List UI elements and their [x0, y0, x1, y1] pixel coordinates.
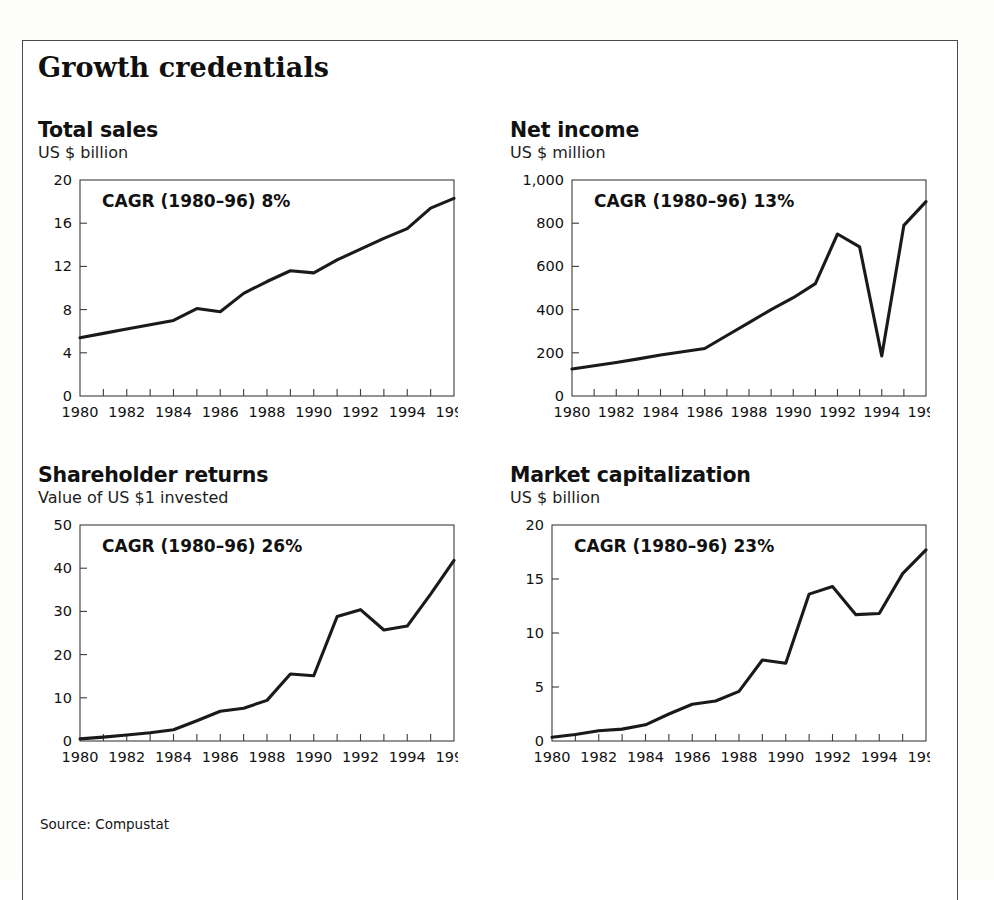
x-axis-tick-label: 1982 [580, 749, 617, 765]
cagr-annotation: CAGR (1980–96) 23% [574, 536, 774, 556]
chart-subtitle: US $ billion [38, 143, 458, 162]
y-axis-tick-label: 15 [526, 571, 544, 587]
x-axis-tick-label: 1996 [908, 749, 930, 765]
line-chart-svg: 0510152019801982198419861988199019921994… [510, 517, 930, 777]
data-series-line [80, 560, 454, 738]
y-axis-tick-label: 8 [63, 302, 72, 318]
x-axis-tick-label: 1986 [202, 749, 239, 765]
x-axis-tick-label: 1996 [436, 749, 458, 765]
data-series-line [80, 198, 454, 337]
plot-area: 02004006008001,0001980198219841986198819… [510, 172, 930, 432]
x-axis-tick-label: 1980 [534, 749, 571, 765]
x-axis-tick-label: 1990 [295, 404, 332, 420]
x-axis-tick-label: 1988 [249, 749, 286, 765]
y-axis-tick-label: 10 [54, 690, 72, 706]
y-axis-tick-label: 16 [54, 215, 72, 231]
line-chart-svg: 0102030405019801982198419861988199019921… [38, 517, 458, 777]
y-axis-tick-label: 200 [536, 345, 564, 361]
y-axis-tick-label: 20 [54, 647, 72, 663]
chart-panel-total-sales: Total sales US $ billion 048121620198019… [38, 118, 458, 432]
y-axis-tick-label: 1,000 [522, 172, 564, 188]
x-axis-tick-label: 1984 [627, 749, 664, 765]
x-axis-tick-label: 1990 [775, 404, 812, 420]
cagr-annotation: CAGR (1980–96) 8% [102, 191, 290, 211]
plot-frame [80, 180, 454, 396]
y-axis-tick-label: 0 [535, 733, 544, 749]
source-note: Source: Compustat [40, 816, 169, 832]
chart-title: Net income [510, 118, 930, 142]
x-axis-tick-label: 1986 [674, 749, 711, 765]
y-axis-tick-label: 20 [54, 172, 72, 188]
y-axis-tick-label: 4 [63, 345, 72, 361]
x-axis-tick-label: 1990 [767, 749, 804, 765]
y-axis-tick-label: 600 [536, 258, 564, 274]
x-axis-tick-label: 1992 [819, 404, 856, 420]
chart-subtitle: US $ million [510, 143, 930, 162]
y-axis-tick-label: 50 [54, 517, 72, 533]
x-axis-tick-label: 1996 [436, 404, 458, 420]
x-axis-tick-label: 1992 [342, 749, 379, 765]
y-axis-tick-label: 20 [526, 517, 544, 533]
x-axis-tick-label: 1992 [342, 404, 379, 420]
y-axis-tick-label: 10 [526, 625, 544, 641]
x-axis-tick-label: 1980 [62, 404, 99, 420]
cagr-annotation: CAGR (1980–96) 26% [102, 536, 302, 556]
x-axis-tick-label: 1980 [554, 404, 591, 420]
x-axis-tick-label: 1988 [731, 404, 768, 420]
plot-frame [80, 525, 454, 741]
line-chart-svg: 02004006008001,0001980198219841986198819… [510, 172, 930, 432]
y-axis-tick-label: 0 [555, 388, 564, 404]
x-axis-tick-label: 1984 [155, 404, 192, 420]
x-axis-tick-label: 1994 [863, 404, 900, 420]
x-axis-tick-label: 1982 [108, 749, 145, 765]
x-axis-tick-label: 1994 [389, 749, 426, 765]
plot-area: 0481216201980198219841986198819901992199… [38, 172, 458, 432]
x-axis-tick-label: 1984 [155, 749, 192, 765]
x-axis-tick-label: 1982 [108, 404, 145, 420]
y-axis-tick-label: 800 [536, 215, 564, 231]
x-axis-tick-label: 1986 [686, 404, 723, 420]
x-axis-tick-label: 1992 [814, 749, 851, 765]
x-axis-tick-label: 1990 [295, 749, 332, 765]
chart-panel-net-income: Net income US $ million 02004006008001,0… [510, 118, 930, 432]
chart-panel-shareholder-returns: Shareholder returns Value of US $1 inves… [38, 463, 458, 777]
x-axis-tick-label: 1994 [861, 749, 898, 765]
y-axis-tick-label: 30 [54, 603, 72, 619]
chart-title: Total sales [38, 118, 458, 142]
chart-subtitle: US $ billion [510, 488, 930, 507]
x-axis-tick-label: 1986 [202, 404, 239, 420]
chart-title: Shareholder returns [38, 463, 458, 487]
y-axis-tick-label: 0 [63, 388, 72, 404]
x-axis-tick-label: 1988 [721, 749, 758, 765]
plot-area: 0102030405019801982198419861988199019921… [38, 517, 458, 777]
x-axis-tick-label: 1984 [642, 404, 679, 420]
x-axis-tick-label: 1988 [249, 404, 286, 420]
plot-area: 0510152019801982198419861988199019921994… [510, 517, 930, 777]
x-axis-tick-label: 1996 [908, 404, 930, 420]
x-axis-tick-label: 1994 [389, 404, 426, 420]
plot-frame [572, 180, 926, 396]
plot-frame [552, 525, 926, 741]
data-series-line [552, 550, 926, 737]
y-axis-tick-label: 0 [63, 733, 72, 749]
chart-title: Market capitalization [510, 463, 930, 487]
line-chart-svg: 0481216201980198219841986198819901992199… [38, 172, 458, 432]
y-axis-tick-label: 5 [535, 679, 544, 695]
y-axis-tick-label: 12 [54, 258, 72, 274]
y-axis-tick-label: 400 [536, 302, 564, 318]
y-axis-tick-label: 40 [54, 560, 72, 576]
x-axis-tick-label: 1980 [62, 749, 99, 765]
chart-panel-market-capitalization: Market capitalization US $ billion 05101… [510, 463, 930, 777]
cagr-annotation: CAGR (1980–96) 13% [594, 191, 794, 211]
data-series-line [572, 202, 926, 369]
x-axis-tick-label: 1982 [598, 404, 635, 420]
page-title: Growth credentials [38, 52, 329, 83]
chart-subtitle: Value of US $1 invested [38, 488, 458, 507]
